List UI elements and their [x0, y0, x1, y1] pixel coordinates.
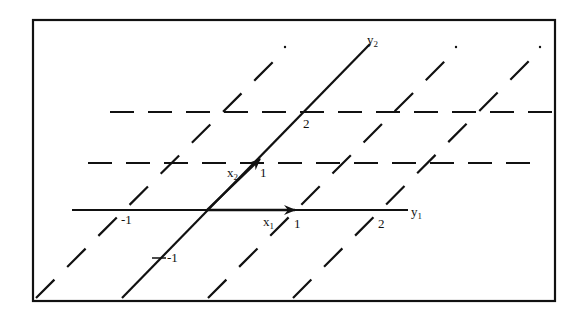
x1-vector-label: x1 — [263, 214, 274, 231]
tick-y1-1: 1 — [294, 216, 301, 231]
dashed-diagonal-lines — [36, 56, 534, 298]
y2-axis-label: y2 — [367, 32, 378, 49]
y1-axis-label: y1 — [411, 204, 422, 221]
line-end-dots — [284, 46, 541, 48]
tick-y1-2: 2 — [378, 216, 385, 231]
tick-y1-minus1: -1 — [121, 212, 132, 227]
coordinate-diagram: y1 y2 x1 x2 -1 1 2 1 2 -1 — [0, 0, 584, 322]
diagram-frame — [33, 20, 555, 301]
dashed-horizontal-lines — [88, 112, 553, 163]
tick-y2-1: 1 — [260, 165, 267, 180]
tick-y2-minus1: -1 — [167, 250, 178, 265]
x2-vector-label: x2 — [227, 165, 238, 182]
dashed-line-y1-2 — [293, 56, 534, 298]
tick-y2-2: 2 — [303, 116, 310, 131]
x2-vector-arrow — [207, 159, 260, 210]
